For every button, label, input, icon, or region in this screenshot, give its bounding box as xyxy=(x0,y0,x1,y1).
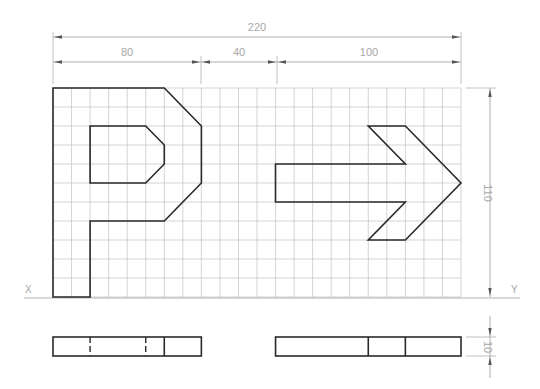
svg-text:10: 10 xyxy=(482,341,494,353)
dimension-110: 110 xyxy=(482,88,494,297)
axis-label-y: Y xyxy=(511,284,518,295)
dimension-220: 220 xyxy=(53,21,461,39)
extension-lines xyxy=(53,32,496,356)
plan-view-outline xyxy=(53,337,201,356)
svg-text:80: 80 xyxy=(121,46,133,58)
grid xyxy=(53,88,461,297)
dimension-100: 100 xyxy=(277,46,461,64)
axis-label-x: X xyxy=(25,284,32,295)
svg-text:220: 220 xyxy=(248,21,266,33)
dimension-80: 80 xyxy=(53,46,201,64)
drawing-canvas: X Y 220 80 40 100 xyxy=(0,0,540,389)
plan-view-arrow xyxy=(276,337,461,356)
svg-text:40: 40 xyxy=(233,46,245,58)
plan-view-letter-p xyxy=(53,337,201,356)
svg-text:110: 110 xyxy=(482,184,494,202)
dimension-10: 10 xyxy=(482,316,494,378)
svg-text:100: 100 xyxy=(360,46,378,58)
dimension-40: 40 xyxy=(201,46,277,64)
